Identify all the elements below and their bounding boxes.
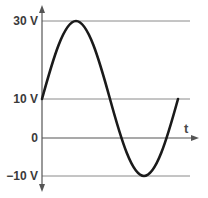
y-label-neg10v: −10 V — [0, 170, 38, 182]
y-label-30v: 30 V — [0, 15, 38, 27]
y-axis-up-arrow-icon — [39, 5, 45, 13]
t-axis-label: t — [184, 122, 188, 135]
y-label-0: 0 — [0, 132, 38, 144]
t-axis-arrow-icon — [191, 135, 199, 141]
y-label-10v: 10 V — [0, 93, 38, 105]
y-axis-down-arrow-icon — [39, 184, 45, 192]
